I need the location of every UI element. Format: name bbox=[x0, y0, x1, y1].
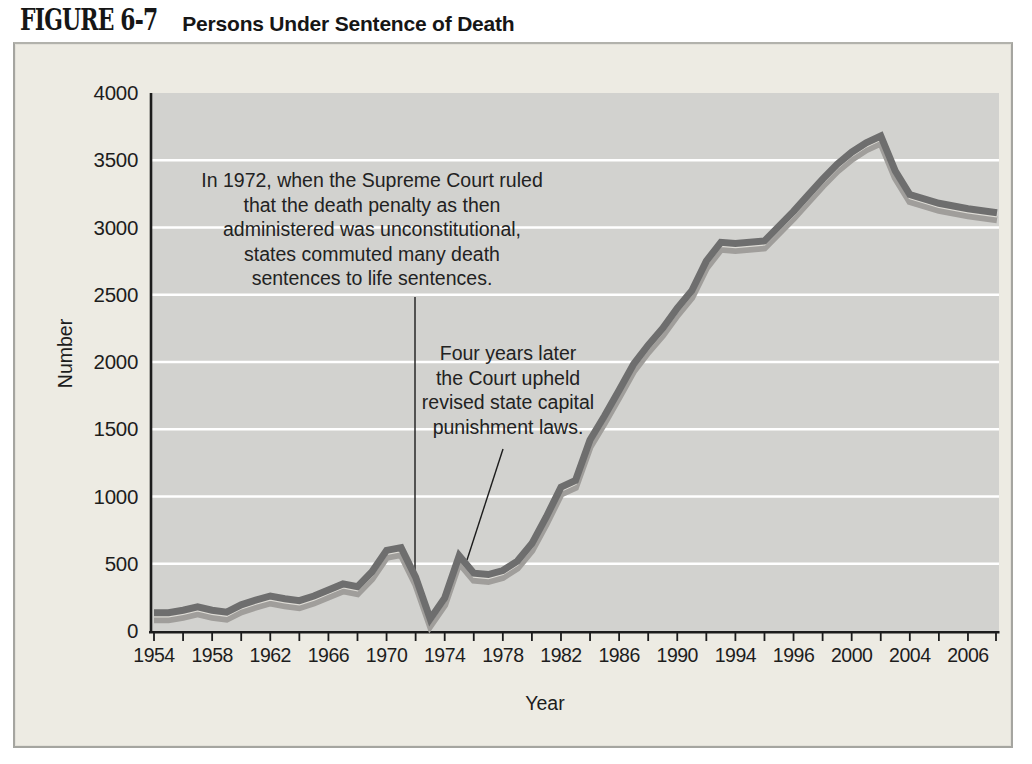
x-tick-label: 1958 bbox=[191, 644, 232, 666]
page: FIGURE 6-7 Persons Under Sentence of Dea… bbox=[0, 0, 1032, 764]
x-tick-label: 2000 bbox=[831, 644, 873, 666]
x-tick-label: 1974 bbox=[424, 644, 466, 666]
x-tick-label: 1986 bbox=[598, 644, 639, 666]
y-tick-label: 4000 bbox=[94, 81, 138, 104]
y-tick-label: 500 bbox=[105, 552, 138, 575]
x-tick-label: 2004 bbox=[889, 644, 931, 666]
figure-label: FIGURE 6-7 bbox=[20, 2, 157, 38]
x-axis-title: Year bbox=[445, 692, 645, 715]
x-tick-label: 1996 bbox=[773, 644, 814, 666]
y-tick-label: 2000 bbox=[94, 350, 138, 373]
x-tick-label: 1970 bbox=[366, 644, 408, 666]
x-tick-label: 1994 bbox=[715, 644, 757, 666]
y-axis-title: Number bbox=[54, 254, 77, 454]
x-tick-label: 2006 bbox=[947, 644, 988, 666]
x-tick-label: 1966 bbox=[308, 644, 349, 666]
annotation-1976-ruling: Four years later the Court upheld revise… bbox=[358, 341, 658, 439]
x-tick-label: 1978 bbox=[482, 644, 523, 666]
y-tick-label: 1000 bbox=[94, 485, 138, 508]
x-tick-label: 1954 bbox=[133, 644, 175, 666]
y-tick-label: 0 bbox=[127, 619, 138, 642]
figure-header: FIGURE 6-7 Persons Under Sentence of Dea… bbox=[20, 5, 515, 38]
x-tick-label: 1982 bbox=[540, 644, 581, 666]
x-tick-label: 1990 bbox=[657, 644, 699, 666]
annotation-1972-ruling: In 1972, when the Supreme Court ruled th… bbox=[142, 168, 602, 291]
figure-title: Persons Under Sentence of Death bbox=[182, 12, 514, 36]
y-tick-label: 3500 bbox=[94, 148, 138, 171]
y-tick-label: 1500 bbox=[94, 417, 138, 440]
x-tick-label: 1962 bbox=[250, 644, 291, 666]
y-tick-label: 3000 bbox=[94, 216, 138, 239]
y-tick-label: 2500 bbox=[94, 283, 138, 306]
figure-box: 0500100015002000250030003500400019541958… bbox=[13, 42, 1013, 748]
